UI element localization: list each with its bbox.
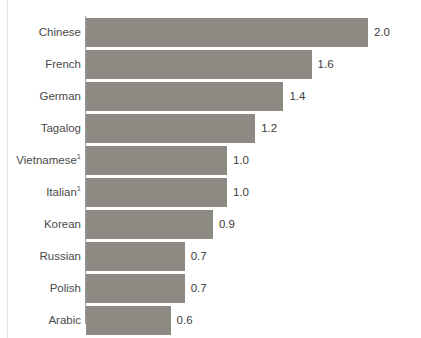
bar-value-label: 1.6 <box>312 50 334 79</box>
bar <box>86 306 171 335</box>
bar <box>86 114 255 143</box>
category-label: Arabic <box>48 306 81 335</box>
bar-track: 1.0 <box>86 178 421 207</box>
category-label: Vietnamese1 <box>16 146 81 175</box>
bar <box>86 50 312 79</box>
bar <box>86 146 227 175</box>
bar-value-label: 1.0 <box>227 146 249 175</box>
footnote-marker: 1 <box>77 152 81 161</box>
bar-row: Russian0.7 <box>0 242 421 271</box>
bar-value-label: 0.6 <box>171 306 193 335</box>
bar <box>86 274 185 303</box>
clipped-header-strip <box>0 0 421 9</box>
bar-row: Arabic0.6 <box>0 306 421 335</box>
bar-track: 1.4 <box>86 82 421 111</box>
bar-value-label: 1.2 <box>255 114 277 143</box>
bar-value-label: 0.7 <box>185 242 207 271</box>
bar-track: 1.6 <box>86 50 421 79</box>
bar-row: French1.6 <box>0 50 421 79</box>
bar-track: 0.7 <box>86 274 421 303</box>
category-label: Italian1 <box>46 178 81 207</box>
category-label: Polish <box>50 274 81 303</box>
bar-row: Korean0.9 <box>0 210 421 239</box>
bar-value-label: 0.7 <box>185 274 207 303</box>
category-label: Chinese <box>39 18 81 47</box>
bar <box>86 18 368 47</box>
bar-track: 0.9 <box>86 210 421 239</box>
footnote-marker: 1 <box>77 184 81 193</box>
category-label: Tagalog <box>41 114 81 143</box>
bar-value-label: 0.9 <box>213 210 235 239</box>
bar <box>86 82 283 111</box>
bar-row: Tagalog1.2 <box>0 114 421 143</box>
bar-chart: Chinese2.0French1.6German1.4Tagalog1.2Vi… <box>0 0 421 338</box>
bar-track: 0.7 <box>86 242 421 271</box>
bar-track: 1.2 <box>86 114 421 143</box>
category-label: Korean <box>44 210 81 239</box>
bar <box>86 242 185 271</box>
bar-track: 2.0 <box>86 18 421 47</box>
bar-row: German1.4 <box>0 82 421 111</box>
bar <box>86 178 227 207</box>
bar-row: Chinese2.0 <box>0 18 421 47</box>
bar-value-label: 1.0 <box>227 178 249 207</box>
bar <box>86 210 213 239</box>
bar-value-label: 2.0 <box>368 18 390 47</box>
category-label: Russian <box>39 242 81 271</box>
bar-row: Polish0.7 <box>0 274 421 303</box>
category-label: German <box>39 82 81 111</box>
plot-area: Chinese2.0French1.6German1.4Tagalog1.2Vi… <box>0 18 421 338</box>
category-label: French <box>45 50 81 79</box>
bar-row: Italian11.0 <box>0 178 421 207</box>
bar-track: 1.0 <box>86 146 421 175</box>
bar-value-label: 1.4 <box>283 82 305 111</box>
bar-row: Vietnamese11.0 <box>0 146 421 175</box>
bar-track: 0.6 <box>86 306 421 335</box>
